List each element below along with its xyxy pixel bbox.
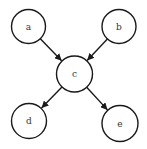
node-label: e	[117, 119, 122, 129]
node-label: c	[72, 69, 77, 79]
graph-canvas: abcde	[0, 0, 147, 149]
node-label: b	[116, 22, 122, 32]
edge-c-e	[87, 87, 108, 110]
arrow-icon	[87, 39, 107, 61]
node-label: a	[26, 22, 32, 32]
node-a: a	[12, 10, 46, 44]
edge-b-c	[87, 39, 107, 61]
node-d: d	[12, 104, 47, 139]
arrow-icon	[87, 87, 108, 110]
arrow-icon	[40, 39, 61, 61]
arrow-icon	[42, 87, 62, 108]
node-label: d	[26, 116, 32, 126]
node-b: b	[102, 10, 136, 44]
node-c: c	[57, 56, 93, 92]
edge-c-d	[42, 87, 62, 108]
node-e: e	[102, 106, 138, 142]
nodes: abcde	[12, 10, 139, 142]
edge-a-c	[40, 39, 61, 61]
